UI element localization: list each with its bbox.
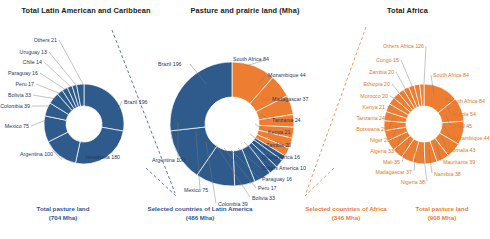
caption-line2: (704 Mha) [8, 214, 118, 223]
data-label-center-10: Peru 17 [258, 186, 277, 191]
data-label-center-7: Others Africa 16 [262, 155, 300, 160]
data-label-left-6: Colombia 39 [0, 104, 30, 109]
data-label-right-15: Somalia 43 [449, 148, 476, 153]
data-label-left-5: Bolivia 33 [8, 93, 31, 98]
slice-am-brazil [170, 62, 232, 131]
data-label-center-3: Madagascar 37 [272, 97, 309, 102]
caption-total-pasture-africa: Total pasture land (908 Mha) [398, 205, 486, 223]
data-label-right-12: Nigeria 38 [401, 180, 425, 185]
data-label-right-1: Congo 15 [376, 58, 399, 63]
data-label-left-7: Mexico 75 [5, 124, 29, 129]
data-label-center-4: Tanzania 24 [272, 118, 301, 123]
data-label-right-13: Namibia 38 [434, 172, 461, 177]
data-label-right-18: Angola 54 [452, 112, 476, 117]
leader-left-5 [33, 95, 56, 99]
data-label-center-1: South Africa 84 [233, 57, 269, 62]
leader-left-0 [59, 40, 83, 84]
data-label-center-13: Mexico 75 [184, 188, 208, 193]
data-label-left-4: Peru 17 [15, 82, 34, 87]
caption-line2: (486 Mha) [120, 214, 280, 223]
data-label-right-6: Tanzania 24 [356, 116, 385, 121]
caption-line2: (346 Mha) [276, 214, 416, 223]
leader-left-3 [40, 73, 66, 90]
data-label-right-14: Mauritania 39 [443, 160, 475, 165]
data-label-left-10: Brazil 196 [124, 100, 148, 105]
data-label-center-5: Kenya 21 [268, 130, 290, 135]
data-label-right-4: Morocco 20 [360, 94, 388, 99]
caption-selected-latin: Selected countries of Latin America (486… [120, 205, 280, 223]
connector-right-top [306, 27, 366, 193]
data-label-center-0: Brazil 196 [158, 62, 182, 67]
data-label-center-14: Argentina 100 [152, 158, 185, 163]
caption-line1: Total pasture land [8, 205, 118, 214]
leader-right-0 [424, 46, 426, 84]
data-label-right-5: Kenya 21 [363, 105, 385, 110]
data-label-right-17: Chad 45 [452, 124, 472, 129]
data-label-right-20: South Africa 84 [433, 73, 469, 78]
data-label-center-6: Zambia 20 [266, 143, 291, 148]
data-label-left-9: Venezuela 180 [85, 155, 120, 160]
data-label-right-9: Algeria 33 [370, 149, 394, 154]
data-label-left-3: Paraguay 16 [8, 71, 38, 76]
connector-right-bottom [305, 168, 334, 196]
data-label-right-2: Zambia 20 [369, 70, 394, 75]
data-label-left-2: Chile 14 [23, 60, 42, 65]
data-label-center-9: Paraguay 16 [262, 177, 292, 182]
data-label-right-11: Madagascar 37 [375, 170, 412, 175]
data-label-right-16: Mozambique 44 [452, 136, 490, 141]
data-label-right-3: Ethiopia 20 [363, 82, 390, 87]
caption-selected-africa: Selected countries of Africa (346 Mha) [276, 205, 416, 223]
caption-line1: Total pasture land [398, 205, 486, 214]
leader-right-1 [401, 60, 412, 86]
leader-left-4 [36, 84, 61, 94]
leader-right-3 [392, 84, 401, 95]
data-label-right-19: South Africa 84 [449, 99, 485, 104]
leader-right-2 [396, 72, 406, 90]
data-label-center-8: Others America 10 [262, 166, 306, 171]
data-label-right-8: Niger 29 [370, 138, 390, 143]
data-label-right-7: Botswana 26 [356, 127, 387, 132]
data-label-left-0: Others 21 [34, 38, 57, 43]
data-label-right-10: Mali 35 [383, 160, 400, 165]
data-label-right-0: Others Africa 126 [383, 44, 424, 49]
caption-line1: Selected countries of Latin America [120, 205, 280, 214]
leader-left-2 [44, 62, 71, 87]
caption-line2: (908 Mha) [398, 214, 486, 223]
data-label-center-2: Mozambique 44 [268, 73, 306, 78]
connector-left-bottom [146, 168, 176, 196]
caption-line1: Selected countries of Africa [276, 205, 416, 214]
data-label-left-1: Uruguay 13 [20, 50, 47, 55]
data-label-left-8: Argentina 100 [20, 152, 53, 157]
caption-total-pasture-latin: Total pasture land (704 Mha) [8, 205, 118, 223]
slice-brazil [84, 84, 124, 131]
leader-left-1 [49, 52, 76, 85]
data-label-center-11: Bolivia 33 [252, 196, 275, 201]
